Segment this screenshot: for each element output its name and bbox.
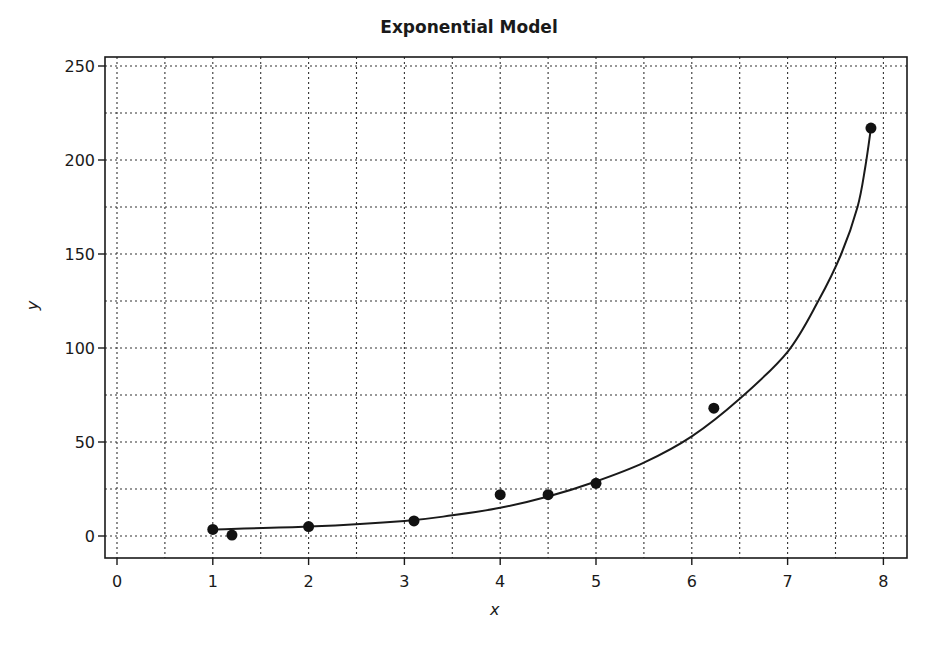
plot-frame [105,57,907,558]
data-points [207,123,876,541]
plot-area: 012345678 050100150200250 [0,0,938,649]
data-point [408,515,419,526]
x-tick-label: 5 [591,572,601,591]
data-point [207,524,218,535]
y-tick-label: 0 [85,527,95,546]
y-tick-label: 200 [64,151,95,170]
data-point [303,521,314,532]
x-axis-ticks: 012345678 [112,558,889,591]
x-tick-label: 4 [495,572,505,591]
y-tick-label: 150 [64,245,95,264]
x-tick-label: 6 [687,572,697,591]
y-tick-label: 100 [64,339,95,358]
data-point [543,489,554,500]
y-axis-ticks: 050100150200250 [64,57,105,546]
x-tick-label: 8 [878,572,888,591]
x-axis-label: x [490,600,499,619]
x-tick-label: 0 [112,572,122,591]
data-point [865,123,876,134]
data-point [591,478,602,489]
y-tick-label: 50 [75,433,95,452]
y-tick-label: 250 [64,57,95,76]
data-point [495,489,506,500]
x-tick-label: 7 [783,572,793,591]
x-tick-label: 1 [208,572,218,591]
data-point [708,403,719,414]
fit-curve [213,128,871,529]
y-axis-label: y [23,301,42,310]
data-point [226,530,237,541]
chart: Exponential Model 012345678 050100150200… [0,0,938,649]
grid-lines [105,57,907,558]
x-tick-label: 3 [399,572,409,591]
x-tick-label: 2 [304,572,314,591]
